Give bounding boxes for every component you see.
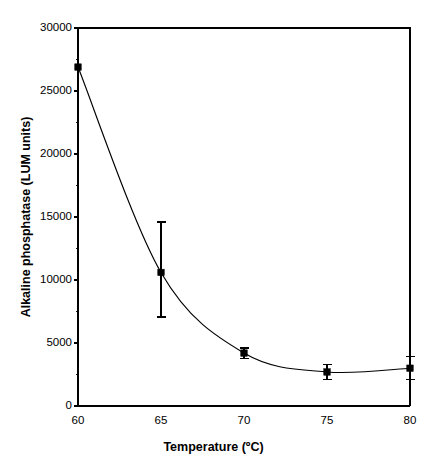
x-tick-label: 60: [72, 415, 85, 427]
data-point-marker: [407, 365, 414, 372]
error-bars: [157, 222, 415, 380]
data-point-marker: [241, 350, 248, 357]
data-point-marker: [324, 369, 331, 376]
x-tick-label: 65: [155, 415, 168, 427]
y-axis-title: Alkaline phosphatase (LUM units): [16, 28, 36, 406]
data-markers: [75, 64, 414, 375]
y-axis-major-ticks: [74, 28, 78, 406]
x-axis-title: Temperature (ºC): [0, 440, 427, 454]
x-tick-label: 70: [238, 415, 251, 427]
data-point-marker: [75, 64, 82, 70]
chart-figure: 050001000015000200002500030000 606570758…: [0, 0, 427, 473]
x-tick-label: 75: [321, 415, 334, 427]
data-point-marker: [158, 269, 165, 276]
x-tick-label: 80: [404, 415, 417, 427]
data-curve: [78, 67, 410, 373]
